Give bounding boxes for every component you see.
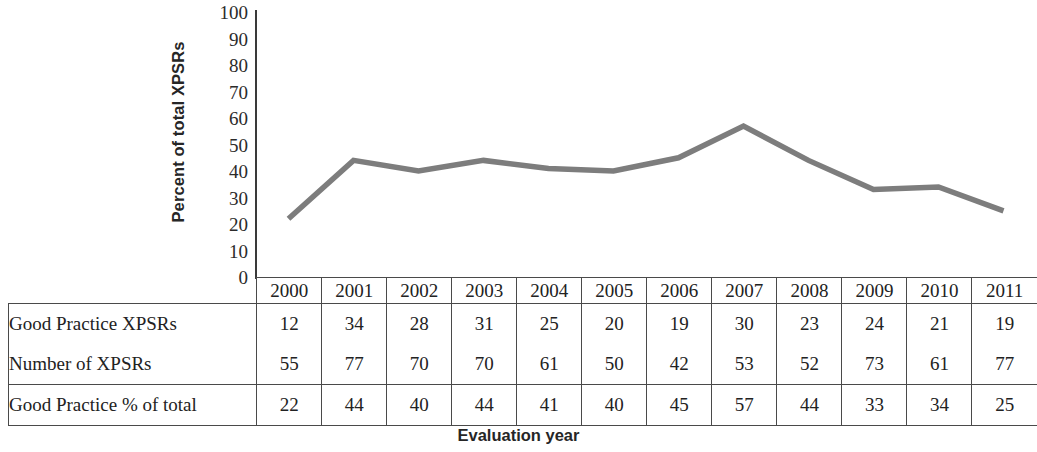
table-cell: 57 <box>712 385 777 426</box>
table-cell: 44 <box>322 385 387 426</box>
data-table: 2000200120022003200420052006200720082009… <box>8 277 1037 426</box>
y-axis-tick-label: 60 <box>186 109 248 128</box>
table-header-year: 2006 <box>647 278 712 304</box>
table-cell: 31 <box>452 304 517 345</box>
y-axis-tick-label: 70 <box>186 83 248 102</box>
y-axis-tick-label: 20 <box>186 215 248 234</box>
table-header-year: 2009 <box>842 278 907 304</box>
table-header-year: 2008 <box>777 278 842 304</box>
y-axis-tick-label: 100 <box>186 3 248 22</box>
table-row-label: Good Practice XPSRs <box>9 304 257 345</box>
table-header-year: 2011 <box>972 278 1037 304</box>
table-row: Good Practice % of total2244404441404557… <box>9 385 1037 426</box>
y-axis-tick-label: 10 <box>186 242 248 261</box>
chart-figure: Percent of total XPSRs 10090807060504030… <box>0 0 1037 452</box>
table-cell: 20 <box>582 304 647 345</box>
y-axis-tick-label: 40 <box>186 162 248 181</box>
table-body: Good Practice XPSRs123428312520193023242… <box>9 304 1037 426</box>
table-header-year: 2003 <box>452 278 517 304</box>
table-cell: 55 <box>257 344 322 385</box>
y-axis-tick-label: 80 <box>186 56 248 75</box>
y-axis-tick-labels: 1009080706050403020100 <box>186 0 248 290</box>
table-cell: 44 <box>452 385 517 426</box>
table-cell: 12 <box>257 304 322 345</box>
table-cell: 45 <box>647 385 712 426</box>
table-cell: 28 <box>387 304 452 345</box>
table-cell: 33 <box>842 385 907 426</box>
table-cell: 70 <box>387 344 452 385</box>
table-cell: 42 <box>647 344 712 385</box>
table-header-year: 2001 <box>322 278 387 304</box>
table-cell: 52 <box>777 344 842 385</box>
table-header-year: 2005 <box>582 278 647 304</box>
table-cell: 34 <box>907 385 972 426</box>
y-axis-tick-label: 50 <box>186 136 248 155</box>
table-row: Number of XPSRs557770706150425352736177 <box>9 344 1037 385</box>
table-cell: 34 <box>322 304 387 345</box>
table-cell: 30 <box>712 304 777 345</box>
table-header-year: 2002 <box>387 278 452 304</box>
table-cell: 19 <box>647 304 712 345</box>
table-header-row: 2000200120022003200420052006200720082009… <box>9 278 1037 304</box>
table-cell: 61 <box>517 344 582 385</box>
table-cell: 24 <box>842 304 907 345</box>
table-cell: 40 <box>582 385 647 426</box>
table-cell: 44 <box>777 385 842 426</box>
table-header-year: 2004 <box>517 278 582 304</box>
table-cell: 22 <box>257 385 322 426</box>
line-series-svg <box>255 8 1037 279</box>
table-cell: 77 <box>322 344 387 385</box>
table-header-year: 2000 <box>257 278 322 304</box>
table-header: 2000200120022003200420052006200720082009… <box>9 278 1037 304</box>
table-header-corner-blank <box>9 278 257 304</box>
line-series-good-practice-percent <box>289 126 1004 219</box>
table-cell: 25 <box>517 304 582 345</box>
table-cell: 41 <box>517 385 582 426</box>
table-cell: 23 <box>777 304 842 345</box>
table-cell: 70 <box>452 344 517 385</box>
table-cell: 73 <box>842 344 907 385</box>
table-cell: 21 <box>907 304 972 345</box>
table-cell: 77 <box>972 344 1037 385</box>
table-row: Good Practice XPSRs123428312520193023242… <box>9 304 1037 345</box>
table-cell: 40 <box>387 385 452 426</box>
y-axis-tick-label: 30 <box>186 189 248 208</box>
table-cell: 25 <box>972 385 1037 426</box>
table-header-year: 2010 <box>907 278 972 304</box>
table-row-label: Good Practice % of total <box>9 385 257 426</box>
table-cell: 61 <box>907 344 972 385</box>
table-cell: 53 <box>712 344 777 385</box>
plot-area <box>255 8 1037 279</box>
y-axis-tick-label: 90 <box>186 30 248 49</box>
table-header-year: 2007 <box>712 278 777 304</box>
table-row-label: Number of XPSRs <box>9 344 257 385</box>
table-cell: 19 <box>972 304 1037 345</box>
x-axis-title: Evaluation year <box>0 426 1037 445</box>
table-cell: 50 <box>582 344 647 385</box>
